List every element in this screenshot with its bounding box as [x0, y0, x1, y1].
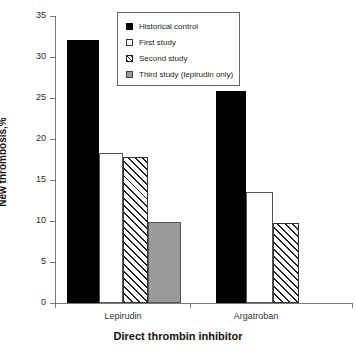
y-tick-label: 25: [22, 93, 46, 102]
y-tick-mark: [50, 221, 55, 222]
legend-label: Third study (lepirudin only): [139, 70, 233, 79]
bar-lepirudin-third-study-lepirudin-only: [148, 222, 181, 303]
y-tick-label: 5: [22, 257, 46, 266]
y-tick-mark: [50, 57, 55, 58]
legend-label: Historical control: [139, 22, 198, 31]
legend-label: Second study: [139, 54, 187, 63]
bar-lepirudin-first-study: [99, 153, 123, 303]
y-tick-mark: [50, 262, 55, 263]
chart-legend: Historical control First study Second st…: [117, 12, 240, 86]
x-tick-mark: [190, 303, 191, 308]
x-axis-line: [55, 303, 352, 304]
legend-swatch-gray-icon: [126, 71, 133, 78]
y-tick-mark: [50, 180, 55, 181]
bar-lepirudin-historical-control: [67, 40, 99, 303]
legend-item-historical-control: Historical control: [126, 18, 239, 34]
y-tick-label: 10: [22, 216, 46, 225]
legend-label: First study: [139, 38, 176, 47]
y-axis-label: New thrombosis,%: [0, 92, 8, 232]
y-tick-label: 20: [22, 134, 46, 143]
bar-argatroban-second-study: [273, 223, 299, 303]
legend-item-first-study: First study: [126, 34, 239, 50]
y-tick-label: 30: [22, 52, 46, 61]
bar-argatroban-historical-control: [216, 91, 246, 303]
x-tick-label-lepirudin: Lepirudin: [78, 311, 168, 321]
bar-chart-figure: New thrombosis,% 05101520253035 Lepirudi…: [0, 0, 356, 350]
y-tick-label: 15: [22, 175, 46, 184]
legend-swatch-hatch-icon: [126, 55, 133, 62]
x-tick-mark: [352, 303, 353, 308]
x-axis-label: Direct thrombin inhibitor: [0, 330, 356, 342]
bar-argatroban-first-study: [246, 192, 273, 303]
x-tick-label-argatroban: Argatroban: [211, 311, 301, 321]
x-tick-mark: [55, 303, 56, 308]
bar-lepirudin-second-study: [123, 157, 148, 303]
legend-swatch-open-icon: [126, 39, 133, 46]
y-tick-label: 35: [22, 11, 46, 20]
legend-item-third-study: Third study (lepirudin only): [126, 66, 239, 82]
y-tick-mark: [50, 139, 55, 140]
legend-item-second-study: Second study: [126, 50, 239, 66]
y-axis-label-wrapper: New thrombosis,%: [0, 0, 11, 92]
y-tick-mark: [50, 16, 55, 17]
legend-swatch-solid-icon: [126, 23, 133, 30]
y-tick-label: 0: [22, 298, 46, 307]
y-tick-mark: [50, 98, 55, 99]
